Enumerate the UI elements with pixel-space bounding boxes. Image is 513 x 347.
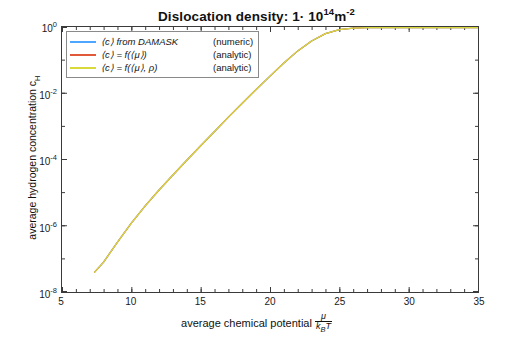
legend-item-damask-numeric[interactable]: ⟨c⟩ from DAMASK(numeric) [70, 35, 253, 48]
chart-title-exponent-2: -2 [346, 6, 355, 17]
legend-swatch [70, 67, 96, 69]
y-axis-label-subscript: H [33, 75, 42, 80]
legend-swatch [70, 54, 96, 56]
legend-label: ⟨c⟩ = f(⟨μ⟩)(analytic) [101, 49, 252, 60]
y-axis-label: average hydrogen concentration cH [26, 28, 41, 288]
legend-swatch [70, 41, 96, 43]
legend-item-analytic-mu-rho[interactable]: ⟨c⟩ = f(⟨μ⟩, ρ)(analytic) [70, 61, 253, 74]
y-axis-label-text: average hydrogen concentration c [26, 81, 38, 240]
x-tick-label: 20 [264, 296, 275, 307]
legend-label: ⟨c⟩ from DAMASK(numeric) [101, 36, 253, 47]
legend-label: ⟨c⟩ = f(⟨μ⟩, ρ)(analytic) [101, 62, 252, 73]
legend-item-analytic-mu[interactable]: ⟨c⟩ = f(⟨μ⟩)(analytic) [70, 48, 253, 61]
x-tick-label: 30 [404, 296, 415, 307]
x-tick-label: 10 [125, 296, 136, 307]
chart-title-main: Dislocation density: 1· 10 [158, 9, 323, 24]
x-axis-label-fraction: μ kBT [315, 312, 332, 334]
figure-canvas: Dislocation density: 1· 1014m-2 5 10 15 … [0, 0, 513, 347]
x-tick-label: 25 [334, 296, 345, 307]
x-axis-label-text: average chemical potential [181, 317, 312, 329]
x-tick-label: 35 [473, 296, 484, 307]
y-tick-label: 10-8 [24, 286, 57, 299]
x-tick-label: 15 [195, 296, 206, 307]
chart-title-exponent-1: 14 [323, 6, 334, 17]
legend: ⟨c⟩ from DAMASK(numeric) ⟨c⟩ = f(⟨μ⟩)(an… [66, 31, 259, 78]
chart-title-unit: m [334, 9, 346, 24]
x-axis-label: average chemical potential μ kBT [0, 313, 513, 335]
chart-title: Dislocation density: 1· 1014m-2 [0, 6, 513, 24]
x-tick-label: 5 [58, 296, 64, 307]
